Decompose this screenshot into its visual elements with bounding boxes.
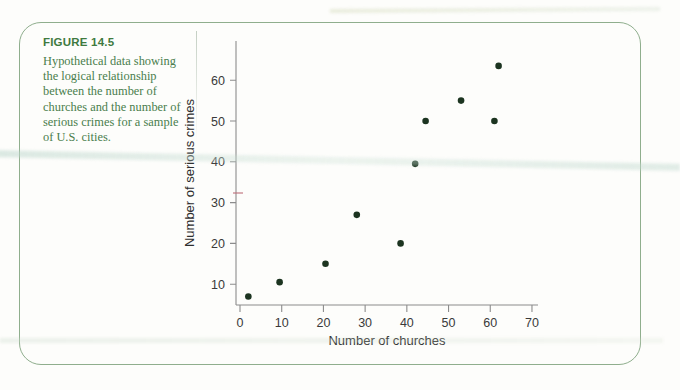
- x-tick-label: 70: [525, 316, 539, 330]
- y-tick-label: 20: [211, 237, 225, 251]
- data-point: [245, 293, 252, 300]
- data-point: [491, 118, 498, 125]
- data-point: [458, 97, 465, 104]
- x-tick-label: 10: [275, 316, 289, 330]
- data-point: [412, 161, 419, 168]
- data-point: [422, 118, 429, 125]
- scatter-plot: 102030405060 010203040506070 Number of c…: [20, 23, 641, 365]
- plot-axes: [236, 41, 538, 305]
- x-tick-label: 30: [358, 316, 372, 330]
- y-tick-label: 10: [211, 278, 225, 292]
- y-tick-label: 50: [211, 115, 225, 129]
- data-points: [245, 63, 502, 300]
- y-tick-label: 40: [211, 155, 225, 169]
- y-tick-label: 30: [211, 196, 225, 210]
- data-point: [495, 63, 502, 70]
- data-point: [322, 261, 329, 268]
- data-point: [397, 240, 404, 247]
- scan-streak-top-artifact: [330, 7, 660, 13]
- data-point: [276, 279, 283, 286]
- x-tick-label: 20: [316, 316, 330, 330]
- y-axis-title: Number of serious crimes: [182, 98, 197, 247]
- x-tick-label: 0: [237, 316, 244, 330]
- x-axis-ticks: 010203040506070: [237, 305, 539, 330]
- figure-card: FIGURE 14.5 Hypothetical data showing th…: [19, 22, 641, 365]
- x-tick-label: 60: [483, 316, 497, 330]
- y-tick-label: 60: [211, 74, 225, 88]
- x-tick-label: 50: [442, 316, 456, 330]
- y-axis-ticks: 102030405060: [211, 74, 236, 292]
- data-point: [353, 212, 360, 219]
- x-tick-label: 40: [400, 316, 414, 330]
- x-axis-title: Number of churches: [328, 333, 446, 348]
